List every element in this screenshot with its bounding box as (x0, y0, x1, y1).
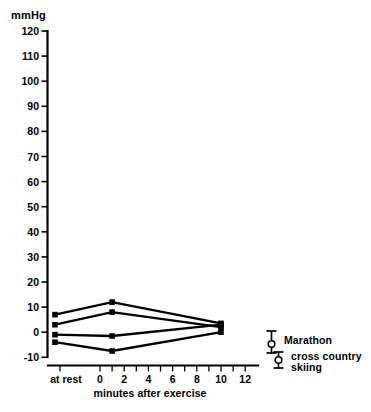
x-tick-label: 8 (194, 373, 200, 385)
data-series-1 (52, 299, 224, 326)
y-tick-10: 10 (27, 301, 47, 313)
x-tick-label: 10 (215, 373, 227, 385)
chart-legend: Marathon cross country skiing (267, 331, 362, 373)
data-point-marker (52, 312, 58, 318)
y-tick-label: 70 (27, 151, 39, 163)
y-tick-80: 80 (27, 125, 47, 137)
y-tick-40: 40 (27, 226, 47, 238)
legend-label-marathon: Marathon (284, 334, 332, 346)
y-tick-label: 40 (27, 226, 39, 238)
data-point-marker (109, 333, 115, 339)
data-point-marker (52, 332, 58, 338)
y-axis-unit-label: mmHg (11, 9, 46, 21)
y-tick-20: 20 (27, 276, 47, 288)
y-tick-minus-10: -10 (24, 351, 48, 363)
data-point-marker (109, 348, 115, 354)
y-tick-label: 90 (27, 100, 39, 112)
x-axis-tick-labels: 0 2 4 6 8 10 12 (97, 373, 251, 385)
y-tick-120: 120 (21, 25, 47, 37)
x-axis-caption: minutes after exercise (93, 387, 206, 399)
y-tick-label: 110 (22, 50, 39, 62)
y-tick-label: 100 (21, 75, 39, 87)
y-tick-30: 30 (27, 251, 47, 263)
y-tick-110: 110 (22, 50, 47, 62)
legend-dot-cross-country-skiing (275, 357, 282, 364)
series-3-line (55, 325, 221, 336)
y-tick-label: 120 (21, 25, 39, 37)
chart-container: mmHg 120 110 100 90 80 (0, 0, 371, 412)
y-tick-70: 70 (27, 151, 47, 163)
legend-marker-cross-country-skiing (274, 352, 284, 368)
x-axis-at-rest-label: at rest (50, 373, 82, 385)
y-tick-100: 100 (21, 75, 47, 87)
y-axis-ticks: 120 110 100 90 80 70 (21, 25, 47, 363)
x-tick-label: 4 (145, 373, 151, 385)
legend-dot-marathon (268, 341, 275, 348)
data-point-marker (52, 339, 58, 345)
x-tick-label: 6 (170, 373, 176, 385)
series-group (52, 299, 224, 354)
y-tick-label: 20 (27, 276, 39, 288)
x-tick-label: 12 (239, 373, 251, 385)
data-point-marker (218, 322, 224, 328)
y-tick-50: 50 (27, 201, 47, 213)
y-tick-label: -10 (24, 351, 39, 363)
legend-label-cross-country-line2: skiing (291, 361, 322, 373)
y-tick-label: 10 (27, 301, 39, 313)
data-point-marker (109, 309, 115, 315)
y-tick-0: 0 (33, 326, 47, 338)
y-tick-label: 80 (27, 125, 39, 137)
blood-pressure-line-chart: mmHg 120 110 100 90 80 (0, 0, 371, 412)
x-tick-label: 2 (121, 373, 127, 385)
data-point-marker (109, 299, 115, 305)
y-tick-90: 90 (27, 100, 47, 112)
y-tick-label: 50 (27, 201, 39, 213)
y-tick-60: 60 (27, 176, 47, 188)
y-tick-label: 0 (33, 326, 39, 338)
legend-marker-marathon (267, 331, 277, 353)
data-point-marker (52, 322, 58, 328)
data-point-marker (218, 329, 224, 335)
x-tick-label: 0 (97, 373, 103, 385)
y-tick-label: 30 (27, 251, 39, 263)
y-tick-label: 60 (27, 176, 39, 188)
